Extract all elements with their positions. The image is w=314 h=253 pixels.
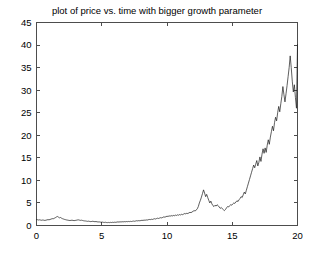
y-tick-label: 10 [21, 175, 32, 186]
x-tick-label: 0 [34, 230, 39, 241]
x-tick-label: 10 [162, 230, 173, 241]
y-tick-label: 25 [21, 107, 32, 118]
x-axis-tick-labels: 05101520 [34, 230, 303, 241]
x-axis-tick-marks [37, 23, 298, 226]
x-tick-label: 20 [292, 230, 303, 241]
y-axis-tick-marks [37, 23, 298, 226]
x-tick-label: 5 [99, 230, 104, 241]
plot-canvas: 051015202530354045 05101520 [0, 0, 314, 253]
data-series-group [37, 45, 298, 223]
y-tick-label: 5 [26, 197, 31, 208]
y-tick-label: 15 [21, 152, 32, 163]
plot-frame-box [37, 23, 298, 226]
y-axis-tick-labels: 051015202530354045 [21, 17, 32, 231]
y-tick-label: 30 [21, 85, 32, 96]
y-tick-label: 20 [21, 130, 32, 141]
price-series-line [37, 45, 298, 223]
x-tick-label: 15 [227, 230, 238, 241]
y-tick-label: 0 [26, 220, 31, 231]
y-tick-label: 40 [21, 39, 32, 50]
chart-figure: plot of price vs. time with bigger growt… [0, 0, 314, 253]
y-tick-label: 35 [21, 62, 32, 73]
y-tick-label: 45 [21, 17, 32, 28]
